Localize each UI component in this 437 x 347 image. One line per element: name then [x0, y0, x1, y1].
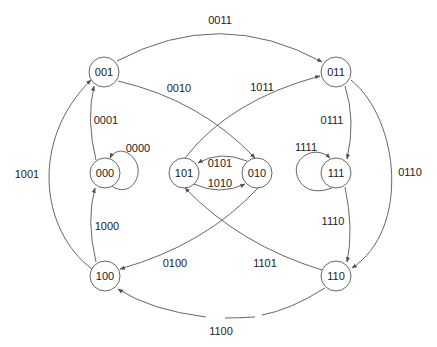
- edge-0111: [345, 86, 351, 159]
- edge-label: 1111: [295, 141, 317, 153]
- edge-1001: [49, 80, 92, 269]
- state-node-000: 000: [90, 158, 120, 188]
- svg-text:001: 001: [95, 66, 113, 78]
- edge-0110: [351, 80, 392, 268]
- edge-label: 1110: [322, 215, 345, 227]
- svg-text:000: 000: [96, 167, 114, 179]
- edge-1100: [262, 288, 325, 315]
- state-node-010: 010: [242, 158, 272, 188]
- edge-label: 0100: [163, 257, 187, 269]
- edge-label: 0101: [208, 157, 232, 169]
- svg-text:111: 111: [328, 167, 345, 179]
- svg-text:101: 101: [175, 167, 193, 179]
- state-node-101: 101: [169, 158, 199, 188]
- edge-1100-c: [118, 289, 206, 317]
- edge-0100: [120, 188, 258, 269]
- edge-label: 0011: [208, 14, 232, 26]
- edge-0011: [117, 34, 322, 62]
- svg-text:110: 110: [327, 270, 345, 282]
- state-node-111: 111: [321, 158, 351, 188]
- edge-label: 1011: [250, 81, 274, 93]
- state-node-011: 011: [321, 57, 351, 87]
- edge-label: 0110: [398, 166, 422, 178]
- svg-text:011: 011: [327, 66, 345, 78]
- edge-label: 0111: [321, 114, 344, 126]
- state-node-001: 001: [89, 57, 119, 87]
- edge-1110: [345, 187, 350, 262]
- edge-label: 0010: [167, 82, 191, 94]
- edge-label: 1010: [208, 177, 232, 189]
- edge-label: 1000: [95, 220, 119, 232]
- state-node-100: 100: [90, 261, 120, 291]
- state-diagram: 0011 0010 0001 0000 1001 1011 0101 1010 …: [0, 0, 437, 347]
- edge-1100-b: [225, 317, 255, 318]
- edge-label: 1001: [15, 168, 39, 180]
- edge-label: 0000: [126, 142, 150, 154]
- edge-label: 1100: [209, 325, 233, 337]
- edge-label: 0001: [94, 114, 118, 126]
- edge-label: 1101: [253, 257, 277, 269]
- svg-text:100: 100: [96, 270, 114, 282]
- edge-labels: 0011 0010 0001 0000 1001 1011 0101 1010 …: [15, 14, 422, 337]
- svg-text:010: 010: [248, 167, 266, 179]
- state-node-110: 110: [321, 261, 351, 291]
